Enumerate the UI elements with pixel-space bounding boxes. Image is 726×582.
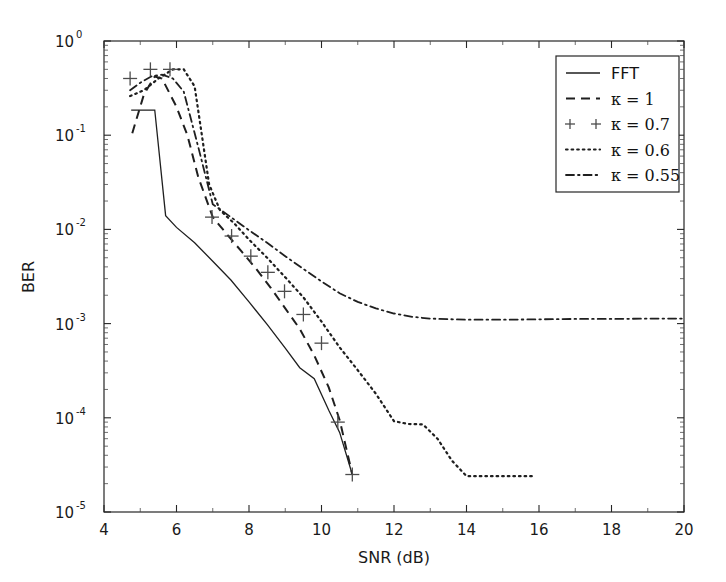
y-tick-label: 10-3	[55, 312, 86, 334]
y-tick-label: 10-4	[55, 406, 86, 428]
legend-label: κ = 0.7	[611, 115, 670, 134]
y-tick-mantissa: 10	[55, 33, 74, 51]
y-axis-label: BER	[19, 261, 38, 293]
series-marker-plus	[345, 468, 359, 482]
y-tick-exponent: 0	[76, 29, 82, 40]
series-marker-plus	[225, 229, 239, 243]
legend-label: κ = 1	[611, 90, 655, 109]
y-tick-mantissa: 10	[55, 221, 74, 239]
x-tick-label: 8	[244, 521, 254, 539]
series-marker-plus	[205, 210, 219, 224]
y-tick-mantissa: 10	[55, 316, 74, 334]
y-tick-mantissa: 10	[55, 410, 74, 428]
data-markers-group	[123, 62, 359, 481]
y-tick-mantissa: 10	[55, 504, 74, 522]
series-marker-plus	[244, 249, 258, 263]
x-tick-label: 14	[457, 521, 476, 539]
legend[interactable]: FFTκ = 1κ = 0.7κ = 0.6κ = 0.55	[556, 56, 680, 192]
series-marker-plus	[143, 62, 157, 76]
y-tick-label: 10-2	[55, 217, 86, 239]
series-line-3	[130, 69, 535, 476]
series-marker-plus	[261, 265, 275, 279]
ber-vs-snr-chart: 468101214161820 10010-110-210-310-410-5 …	[0, 0, 726, 582]
x-tick-label: 6	[172, 521, 182, 539]
series-marker-plus	[331, 415, 345, 429]
y-tick-exponent: -4	[76, 406, 86, 417]
x-tick-label: 18	[602, 521, 621, 539]
legend-label: κ = 0.55	[611, 166, 680, 185]
y-tick-label: 10-1	[55, 123, 86, 145]
y-tick-exponent: -3	[76, 312, 86, 323]
y-tick-label: 100	[55, 29, 82, 51]
legend-label: κ = 0.6	[611, 141, 670, 160]
series-marker-plus	[278, 284, 292, 298]
figure-canvas: 468101214161820 10010-110-210-310-410-5 …	[0, 0, 726, 582]
x-axis-label: SNR (dB)	[358, 548, 430, 567]
legend-label: FFT	[611, 64, 639, 83]
x-tick-label: 16	[529, 521, 548, 539]
series-line-1	[132, 76, 352, 474]
x-tick-label: 20	[674, 521, 693, 539]
y-tick-exponent: -1	[76, 123, 86, 134]
series-marker-plus	[296, 307, 310, 321]
series-marker-plus	[315, 336, 329, 350]
y-tick-label: 10-5	[55, 500, 86, 522]
series-line-0	[131, 110, 352, 474]
x-tick-label: 12	[384, 521, 403, 539]
y-tick-exponent: -5	[76, 500, 86, 511]
y-tick-mantissa: 10	[55, 127, 74, 145]
x-tick-label: 10	[312, 521, 331, 539]
y-tick-exponent: -2	[76, 217, 86, 228]
x-tick-label: 4	[99, 521, 109, 539]
series-marker-plus	[123, 71, 137, 85]
